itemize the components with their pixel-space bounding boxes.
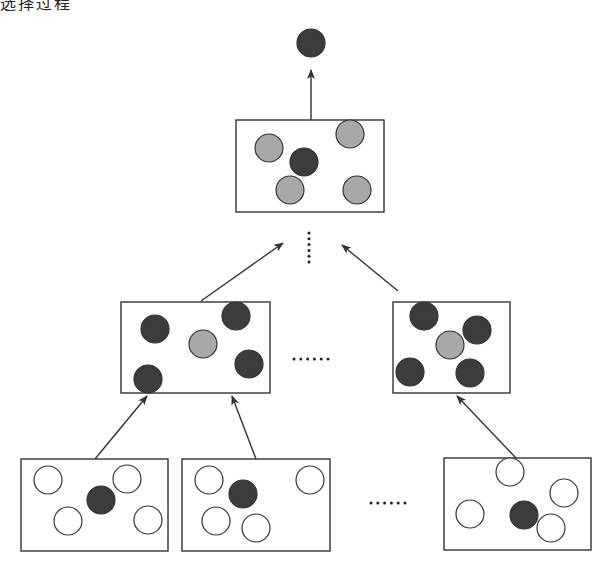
white-individual-circle: [34, 466, 62, 494]
top-population-box-0: [236, 120, 384, 212]
gray-individual-circle: [336, 120, 364, 148]
dot: [404, 502, 407, 505]
white-individual-circle: [202, 507, 230, 535]
dark-individual-circle: [456, 359, 484, 387]
boxes-layer: [21, 120, 591, 551]
best-individual-node: [297, 29, 325, 57]
gray-individual-circle: [276, 176, 304, 204]
dot: [320, 358, 323, 361]
dark-individual-circle: [141, 315, 169, 343]
dot: [327, 358, 330, 361]
dot: [397, 502, 400, 505]
white-individual-circle: [54, 507, 82, 535]
gray-individual-circle: [436, 331, 464, 359]
dot: [308, 255, 311, 258]
dark-individual-circle: [290, 148, 318, 176]
dark-individual-circle: [134, 365, 162, 393]
ellipsis-dots-1: [293, 358, 330, 361]
dot: [293, 358, 296, 361]
arrow-4: [232, 396, 256, 459]
white-individual-circle: [113, 465, 141, 493]
dot: [299, 358, 302, 361]
dot: [308, 237, 311, 240]
ellipsis-dots-0: [308, 232, 311, 264]
white-individual-circle: [195, 466, 223, 494]
dot: [308, 243, 311, 246]
white-individual-circle: [456, 500, 484, 528]
bottom-population-box-2: [444, 458, 591, 550]
gray-individual-circle: [343, 176, 371, 204]
arrow-2: [342, 245, 398, 291]
dark-individual-circle: [510, 501, 538, 529]
white-individual-circle: [296, 466, 324, 494]
bottom-population-box-0: [21, 459, 168, 551]
gray-individual-circle: [189, 330, 217, 358]
dot: [306, 358, 309, 361]
white-individual-circle: [537, 514, 565, 542]
white-individual-circle: [134, 506, 162, 534]
gray-individual-circle: [255, 134, 283, 162]
dark-individual-circle: [87, 486, 115, 514]
white-individual-circle: [242, 514, 270, 542]
dot: [313, 358, 316, 361]
dark-individual-circle: [410, 302, 438, 330]
dot: [308, 232, 311, 235]
bottom-population-box-1: [182, 459, 330, 551]
dot: [376, 502, 379, 505]
dot: [383, 502, 386, 505]
selection-tree-diagram: [0, 0, 606, 564]
arrow-1: [201, 243, 283, 301]
ellipsis-dots-2: [370, 502, 407, 505]
dark-individual-circle: [229, 480, 257, 508]
arrow-3: [95, 396, 147, 459]
dot: [370, 502, 373, 505]
white-individual-circle: [496, 458, 524, 486]
dark-individual-circle: [222, 302, 250, 330]
dark-individual-circle: [396, 358, 424, 386]
middle-population-box-0: [121, 302, 270, 393]
dot: [308, 261, 311, 264]
dark-individual-circle: [463, 316, 491, 344]
white-individual-circle: [550, 479, 578, 507]
middle-population-box-1: [393, 302, 510, 393]
dark-individual-circle: [235, 350, 263, 378]
top-node-layer: [297, 29, 325, 57]
dot: [308, 249, 311, 252]
dot: [390, 502, 393, 505]
arrow-5: [457, 396, 516, 458]
